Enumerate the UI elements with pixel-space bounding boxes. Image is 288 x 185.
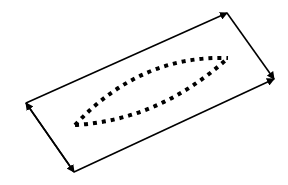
left-bottom-arrow bbox=[26, 103, 74, 172]
bottom-edge-arrow bbox=[74, 79, 274, 172]
lens-upper-curve bbox=[75, 58, 228, 125]
dotted-lens-shape bbox=[75, 58, 228, 125]
diagram-canvas bbox=[0, 0, 288, 185]
right-edge-arrow bbox=[227, 13, 274, 79]
rectangle-outline bbox=[26, 13, 274, 172]
lens-lower-curve bbox=[75, 58, 228, 125]
top-edge-arrow bbox=[26, 13, 227, 103]
